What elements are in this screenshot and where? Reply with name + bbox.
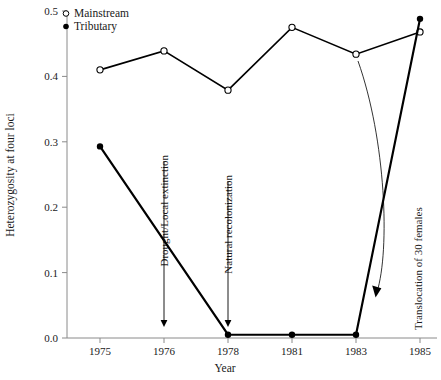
legend-marker-filled-circle-icon — [63, 24, 69, 30]
chart-container: 0.00.10.20.30.40.5 197519761978198119831… — [0, 0, 441, 380]
data-point-tributary — [417, 16, 423, 22]
data-point-tributary — [353, 332, 359, 338]
x-axis-title: Year — [214, 362, 235, 374]
y-tick-label: 0.3 — [44, 136, 58, 148]
legend-item-label: Tributary — [74, 20, 117, 33]
annotation-arrow-head-icon — [161, 320, 168, 327]
series-line-mainstream — [100, 27, 420, 90]
x-axis: 197519761978198119831985 — [67, 338, 437, 357]
y-axis-title: Heterozygosity at four loci — [4, 113, 17, 237]
chart-legend: MainstreamTributary — [63, 7, 129, 33]
data-point-mainstream — [225, 87, 231, 93]
data-point-tributary — [225, 332, 231, 338]
x-tick-label: 1983 — [345, 345, 368, 357]
data-point-tributary — [97, 143, 103, 149]
y-tick-label: 0.4 — [44, 70, 58, 82]
y-tick-label: 0.1 — [44, 267, 58, 279]
data-point-mainstream — [353, 51, 359, 57]
x-tick-label: 1978 — [217, 345, 240, 357]
legend-marker-open-circle-icon — [63, 11, 69, 17]
x-tick-label: 1976 — [153, 345, 176, 357]
annotation-label: Translocation of 30 females — [412, 207, 424, 330]
series-line-tributary — [100, 19, 420, 335]
y-tick-label: 0.5 — [44, 5, 58, 17]
data-point-mainstream — [289, 24, 295, 30]
data-point-mainstream — [97, 67, 103, 73]
legend-item-label: Mainstream — [74, 7, 129, 19]
y-tick-label: 0.0 — [44, 332, 58, 344]
x-tick-label: 1975 — [89, 345, 112, 357]
heterozygosity-line-chart: 0.00.10.20.30.40.5 197519761978198119831… — [0, 0, 441, 380]
x-tick-label: 1981 — [281, 345, 303, 357]
data-point-tributary — [289, 332, 295, 338]
annotation-arrow-head-icon — [225, 320, 232, 327]
y-axis: 0.00.10.20.30.40.5 — [44, 5, 67, 344]
x-tick-label: 1985 — [409, 345, 432, 357]
annotation-curved-arrow-head-icon — [372, 286, 381, 298]
y-tick-label: 0.2 — [44, 201, 58, 213]
data-point-mainstream — [161, 48, 167, 54]
